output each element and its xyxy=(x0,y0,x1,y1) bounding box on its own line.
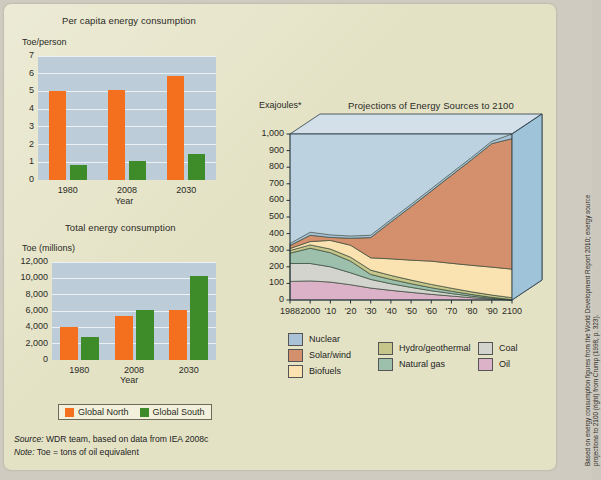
y-axis-label-projections: Exajoules* xyxy=(259,100,302,110)
y-tick-label: 200 xyxy=(250,261,284,271)
y-tick-label: 12,000 xyxy=(10,256,48,266)
chart-right-slab xyxy=(512,114,542,300)
y-tick-label: 300 xyxy=(250,244,284,254)
figure-credit: Based on energy consumption figures from… xyxy=(584,195,601,466)
x-axis-label-total-energy: Year xyxy=(120,375,138,385)
credit-line-2: projections to 2100 (right) from Crump (… xyxy=(592,195,600,466)
x-tick-label: 2030 xyxy=(169,365,209,375)
bar-per-capita-2008-global-south xyxy=(129,161,146,180)
y-tick-label: 7 xyxy=(22,50,34,60)
legend-item-coal: Coal xyxy=(478,340,518,356)
y-tick-label: 700 xyxy=(250,178,284,188)
y-tick-label: 500 xyxy=(250,211,284,221)
bar-total-energy-2008-global-south xyxy=(136,310,154,360)
legend-column-3: CoalOil xyxy=(478,340,518,372)
legend-label-nuclear: Nuclear xyxy=(309,334,340,344)
y-tick-label: 4 xyxy=(22,103,34,113)
source-text: WDR team, based on data from IEA 2008c xyxy=(44,434,209,444)
legend-item-oil: Oil xyxy=(478,356,518,372)
y-tick-label: 4,000 xyxy=(10,321,48,331)
y-tick-label: 100 xyxy=(250,277,284,287)
y-tick-label: 0 xyxy=(22,174,34,184)
gridline xyxy=(38,73,216,74)
y-tick-label: 2,000 xyxy=(10,338,48,348)
legend-label-natural-gas: Natural gas xyxy=(399,359,445,369)
legend-item-nuclear: Nuclear xyxy=(288,331,351,347)
note-label: Note: xyxy=(14,447,35,457)
legend-label-solar-wind: Solar/wind xyxy=(309,350,351,360)
legend-swatch-oil xyxy=(478,358,493,371)
legend-label-biofuels: Biofuels xyxy=(309,366,341,376)
note-line: Note: Toe = tons of oil equivalent xyxy=(14,447,139,457)
y-axis-label-per-capita: Toe/person xyxy=(22,37,67,47)
y-tick-label: 900 xyxy=(250,145,284,155)
legend-item-global-south: Global South xyxy=(140,407,205,417)
y-tick-label: 0 xyxy=(10,354,48,364)
gridline xyxy=(52,262,216,263)
bar-per-capita-1980-global-south xyxy=(70,165,87,180)
x-tick-label: 2030 xyxy=(166,185,206,195)
legend-column-2: Hydro/geothermalNatural gas xyxy=(378,340,471,372)
credit-line-1: Based on energy consumption figures from… xyxy=(584,195,592,466)
bar-chart-legend: Global North Global South xyxy=(58,404,212,420)
x-tick-label: 2100 xyxy=(496,306,528,316)
legend-swatch-biofuels xyxy=(288,365,303,378)
legend-swatch-natural-gas xyxy=(378,358,393,371)
legend-column-1: NuclearSolar/windBiofuels xyxy=(288,331,351,379)
y-tick-label: 600 xyxy=(250,194,284,204)
plot-area-projections xyxy=(252,112,552,312)
y-tick-label: 8,000 xyxy=(10,289,48,299)
legend-swatch-solar-wind xyxy=(288,349,303,362)
x-tick-label: 2008 xyxy=(107,185,147,195)
x-tick-label: 1980 xyxy=(59,365,99,375)
y-tick-label: 6 xyxy=(22,68,34,78)
legend-swatch-nuclear xyxy=(288,333,303,346)
chart-ceiling xyxy=(290,114,542,134)
legend-swatch-hydro-geothermal xyxy=(378,342,393,355)
legend-item-global-north: Global North xyxy=(65,407,129,417)
legend-label-hydro-geothermal: Hydro/geothermal xyxy=(399,343,471,353)
legend-item-solar-wind: Solar/wind xyxy=(288,347,351,363)
bar-per-capita-2008-global-north xyxy=(108,90,125,180)
y-tick-label: 6,000 xyxy=(10,305,48,315)
y-tick-label: 400 xyxy=(250,228,284,238)
chart-title-total-energy: Total energy consumption xyxy=(65,222,176,233)
y-tick-label: 1 xyxy=(22,156,34,166)
bar-per-capita-1980-global-north xyxy=(49,91,66,180)
bar-total-energy-2030-global-north xyxy=(169,310,187,360)
bar-total-energy-1980-global-north xyxy=(60,327,78,360)
bar-total-energy-2008-global-north xyxy=(115,316,133,360)
legend-item-biofuels: Biofuels xyxy=(288,363,351,379)
note-text: Toe = tons of oil equivalent xyxy=(35,447,139,457)
legend-item-natural-gas: Natural gas xyxy=(378,356,471,372)
legend-swatch-global-north xyxy=(65,408,74,417)
chart-title-per-capita: Per capita energy consumption xyxy=(62,15,196,26)
y-tick-label: 2 xyxy=(22,139,34,149)
legend-swatch-coal xyxy=(478,342,493,355)
chart-title-projections: Projections of Energy Sources to 2100 xyxy=(348,100,514,111)
bar-total-energy-2030-global-south xyxy=(190,276,208,360)
y-tick-label: 3 xyxy=(22,121,34,131)
legend-label-global-north: Global North xyxy=(78,407,129,417)
legend-label-oil: Oil xyxy=(499,359,510,369)
y-tick-label: 5 xyxy=(22,85,34,95)
gridline xyxy=(38,56,216,57)
y-tick-label: 1,000 xyxy=(250,128,284,138)
y-tick-label: 0 xyxy=(250,294,284,304)
legend-swatch-global-south xyxy=(140,408,149,417)
x-axis-label-per-capita: Year xyxy=(115,196,133,206)
source-label: Source: xyxy=(14,434,44,444)
plot-area-per-capita xyxy=(38,56,216,180)
legend-item-hydro-geothermal: Hydro/geothermal xyxy=(378,340,471,356)
y-tick-label: 800 xyxy=(250,161,284,171)
bar-per-capita-2030-global-north xyxy=(167,76,184,180)
legend-label-global-south: Global South xyxy=(153,407,205,417)
x-tick-label: 1980 xyxy=(48,185,88,195)
bar-total-energy-1980-global-south xyxy=(81,337,99,360)
plot-area-total-energy xyxy=(52,262,216,360)
bar-per-capita-2030-global-south xyxy=(188,154,205,180)
y-tick-label: 10,000 xyxy=(10,272,48,282)
x-tick-label: 2008 xyxy=(114,365,154,375)
y-axis-label-total-energy: Toe (millions) xyxy=(22,243,75,253)
